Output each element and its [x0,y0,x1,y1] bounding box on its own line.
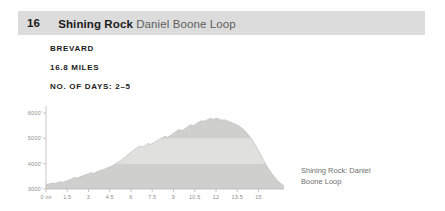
chart-caption: Shining Rock: Daniel Boone Loop [301,165,421,187]
y-tick-label: 4000' [18,161,42,167]
y-tick-label: 5000' [18,135,42,141]
page-root: 16 Shining Rock Daniel Boone Loop BREVAR… [0,0,445,211]
caption-line-1: Shining Rock: Daniel [301,165,421,176]
x-tick-label: 15 [245,194,273,200]
y-tick-label: 3000' [18,186,42,192]
y-tick-label: 6000' [18,110,42,116]
caption-line-2: Boone Loop [301,176,421,187]
